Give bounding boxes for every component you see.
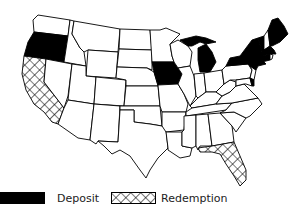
state-montana <box>72 21 120 52</box>
legend-label-redemption: Redemption <box>161 192 227 205</box>
deposit-swatch <box>0 192 45 204</box>
us-states-map <box>0 0 293 190</box>
state-colorado <box>94 77 126 106</box>
state-arkansas <box>162 112 186 132</box>
state-rhode-island <box>270 54 273 60</box>
state-florida <box>198 142 246 186</box>
map-legend: Deposit Redemption <box>0 190 240 206</box>
state-new-mexico <box>90 104 120 144</box>
redemption-swatch <box>111 192 156 204</box>
state-kansas <box>124 86 160 106</box>
legend-label-deposit: Deposit <box>57 192 99 205</box>
state-maine <box>268 18 288 46</box>
state-mississippi <box>182 115 196 148</box>
state-north-dakota <box>119 29 152 50</box>
state-wyoming <box>86 50 118 78</box>
